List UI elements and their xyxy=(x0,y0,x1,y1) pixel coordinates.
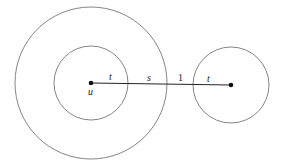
label-1: 1 xyxy=(178,72,183,83)
diagram: u t s 1 t xyxy=(0,0,282,167)
label-s: s xyxy=(147,72,151,83)
label-t-right: t xyxy=(207,73,210,84)
diagram-canvas: u t s 1 t xyxy=(0,0,282,167)
label-u: u xyxy=(88,86,93,97)
label-t-left: t xyxy=(109,71,112,82)
point-right-dot xyxy=(229,83,234,88)
point-u-dot xyxy=(89,81,94,86)
connecting-segment xyxy=(91,83,231,85)
